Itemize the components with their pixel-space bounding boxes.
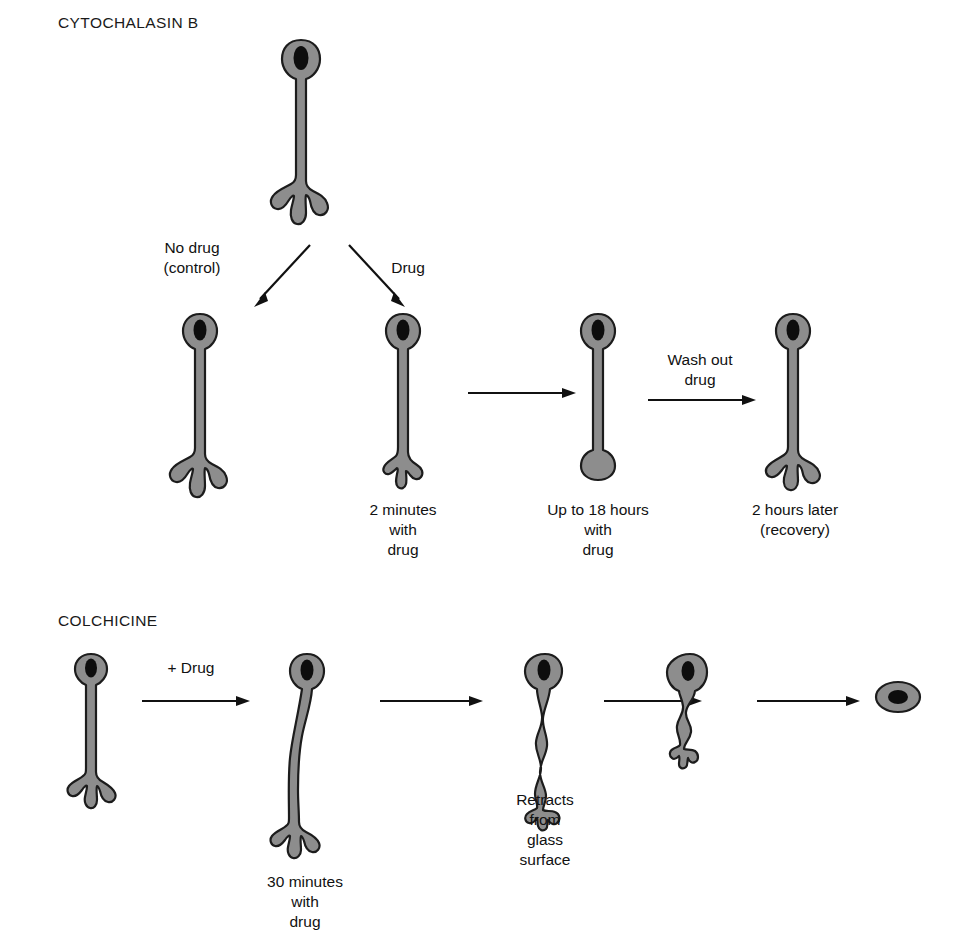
nucleus xyxy=(85,659,97,678)
nucleus xyxy=(301,660,314,681)
arrow-to-eighteen-hours xyxy=(468,386,578,400)
caption-thirty-minutes: 30 minutes with drug xyxy=(267,872,343,932)
arrow-to-rounded xyxy=(757,694,862,708)
nucleus xyxy=(592,320,605,341)
cell-colchicine-thirty-minutes xyxy=(269,650,341,870)
arrow-wash-out-drug xyxy=(648,393,758,407)
label-add-drug: + Drug xyxy=(168,658,215,678)
nucleus xyxy=(194,320,207,341)
cell-eighteen-hours xyxy=(568,310,628,490)
caption-recovery: 2 hours later (recovery) xyxy=(752,500,838,540)
arrow-to-retracting xyxy=(380,694,485,708)
nucleus xyxy=(787,320,800,341)
cell-colchicine-kinked xyxy=(661,650,719,780)
caption-two-minutes: 2 minutes with drug xyxy=(369,500,436,560)
cell-colchicine-untreated xyxy=(58,650,128,820)
cell-parent xyxy=(261,36,341,236)
nucleus xyxy=(538,660,551,681)
branch-label-control: No drug (control) xyxy=(164,238,221,278)
nucleus xyxy=(397,320,410,341)
arrow-add-drug xyxy=(142,694,252,708)
label-wash-out-drug: Wash out drug xyxy=(668,350,733,390)
nucleus xyxy=(888,690,908,704)
cell-recovery xyxy=(758,310,832,490)
cell-colchicine-rounded xyxy=(873,677,923,717)
nucleus xyxy=(294,46,309,70)
section-title-cytochalasin-b: CYTOCHALASIN B xyxy=(58,14,199,32)
nucleus xyxy=(682,661,695,681)
cell-two-minutes xyxy=(368,310,438,490)
branch-arrow-control xyxy=(248,243,318,311)
figure-canvas: CYTOCHALASIN B No drug (control) Drug xyxy=(0,0,960,944)
caption-retracting: Retracts from glass surface xyxy=(516,790,574,870)
cell-control xyxy=(162,310,238,510)
branch-label-drug: Drug xyxy=(391,258,425,278)
section-title-colchicine: COLCHICINE xyxy=(58,612,158,630)
caption-eighteen-hours: Up to 18 hours with drug xyxy=(547,500,649,560)
